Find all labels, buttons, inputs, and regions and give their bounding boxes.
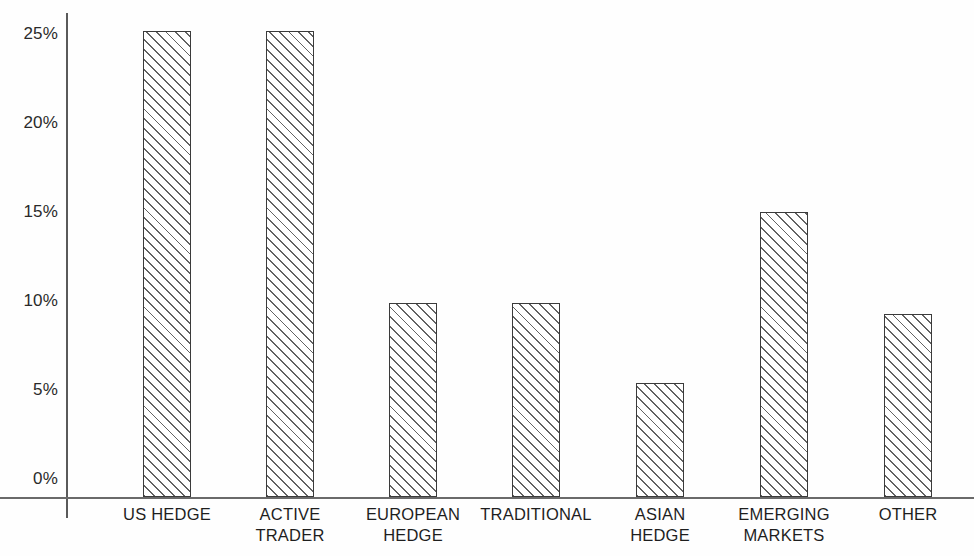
plot-area: US HEDGE ACTIVE TRADER EUROPEAN HEDGE TR… [0, 0, 974, 556]
bar-other[interactable] [884, 314, 932, 497]
bar-us-hedge[interactable] [143, 31, 191, 497]
bar-european-hedge[interactable] [389, 303, 437, 497]
bar-chart: 25% 20% 15% 10% 5% 0% US HEDGE ACTIVE TR… [0, 0, 974, 556]
bar-active-trader[interactable] [266, 31, 314, 497]
bar-traditional[interactable] [512, 303, 560, 497]
bar-asian-hedge[interactable] [636, 383, 684, 497]
x-label-other: OTHER [833, 504, 974, 525]
bar-emerging-markets[interactable] [760, 212, 808, 497]
